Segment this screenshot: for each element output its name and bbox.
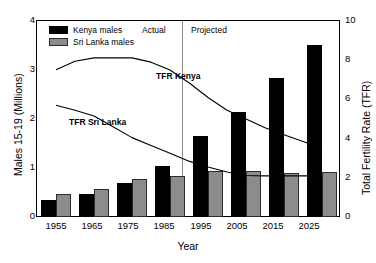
y-tick-left-3: 3 <box>11 64 35 73</box>
y-tick-right-10: 10 <box>345 15 371 24</box>
line-tfr-kenya <box>56 58 322 148</box>
y-tick-left-4: 4 <box>11 15 35 24</box>
y-tick-left-0: 0 <box>11 211 35 220</box>
x-axis-title: Year <box>0 240 376 252</box>
x-tick-2005: 2005 <box>217 221 257 231</box>
x-tick-1965: 1965 <box>72 221 112 231</box>
y-tick-right-6: 6 <box>345 93 371 102</box>
y-tick-left-1: 1 <box>11 162 35 171</box>
y-tick-right-8: 8 <box>345 54 371 63</box>
chart-figure: Males 15-19 (Millions) Total Fertility R… <box>0 0 376 263</box>
x-tick-2025: 2025 <box>289 221 329 231</box>
y-tick-left-2: 2 <box>11 113 35 122</box>
legend-item-kenya: Kenya males <box>49 25 134 35</box>
y-tick-right-0: 0 <box>345 211 371 220</box>
tfr-line-group <box>37 21 341 217</box>
line-tfr-sri-lanka <box>56 105 322 176</box>
x-tick-1985: 1985 <box>144 221 184 231</box>
legend-item-srilanka: Sri Lanka males <box>49 37 134 47</box>
legend-swatch-kenya <box>49 26 68 34</box>
y-tick-right-2: 2 <box>345 172 371 181</box>
legend-label-srilanka: Sri Lanka males <box>73 37 134 47</box>
x-tick-1955: 1955 <box>36 221 76 231</box>
legend-label-kenya: Kenya males <box>73 25 122 35</box>
y-axis-left-title: Males 15-19 (Millions) <box>12 73 24 176</box>
x-tick-1975: 1975 <box>108 221 148 231</box>
legend-swatch-srilanka <box>49 38 68 46</box>
x-tick-2015: 2015 <box>253 221 293 231</box>
chart-legend: Kenya males Sri Lanka males <box>49 25 134 49</box>
y-tick-right-4: 4 <box>345 133 371 142</box>
x-tick-1995: 1995 <box>181 221 221 231</box>
plot-area: Actual Projected TFR Kenya TFR Sri Lanka… <box>36 20 340 217</box>
